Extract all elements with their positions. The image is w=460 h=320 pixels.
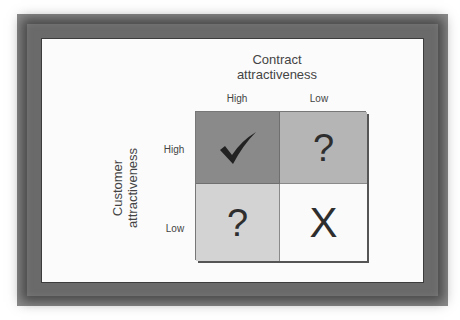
- attractiveness-matrix: ? ? X: [195, 111, 366, 260]
- column-label-high: High: [207, 93, 267, 104]
- row-axis-title-line-2: attractiveness: [125, 128, 140, 248]
- column-axis-title-line-1: Contract: [197, 52, 357, 67]
- question-mark: ?: [227, 204, 248, 242]
- cell-low-low: X: [280, 184, 367, 261]
- checkmark-icon: [219, 131, 257, 165]
- column-axis-title: Contract attractiveness: [197, 52, 357, 82]
- cell-high-low: ?: [280, 112, 367, 184]
- cell-high-high: [196, 112, 280, 184]
- row-label-low: Low: [160, 223, 190, 234]
- x-mark: X: [309, 202, 337, 244]
- cell-low-high: ?: [196, 184, 280, 261]
- row-axis-title-line-1: Customer: [110, 128, 125, 248]
- column-axis-title-line-2: attractiveness: [197, 67, 357, 82]
- row-axis-title: Customer attractiveness: [110, 128, 140, 248]
- column-label-low: Low: [289, 93, 349, 104]
- row-label-high: High: [159, 144, 189, 155]
- question-mark: ?: [313, 129, 334, 167]
